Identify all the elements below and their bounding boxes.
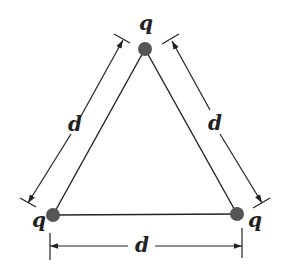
charge-label-bottom-left: q: [32, 208, 46, 232]
dimension-label-left: d: [68, 112, 82, 136]
side-bottom: [53, 214, 237, 215]
dimension-label-right: d: [208, 111, 222, 135]
charge-bottom-left: [46, 208, 60, 222]
side-right: [145, 49, 237, 214]
charge-top: [138, 42, 152, 56]
charge-label-bottom-right: q: [248, 208, 262, 232]
triangle-charge-diagram: d d d q q q: [0, 0, 293, 274]
charge-bottom-right: [230, 207, 244, 221]
dimension-label-bottom: d: [135, 233, 149, 257]
side-left: [53, 49, 145, 215]
charge-label-top: q: [139, 11, 153, 35]
